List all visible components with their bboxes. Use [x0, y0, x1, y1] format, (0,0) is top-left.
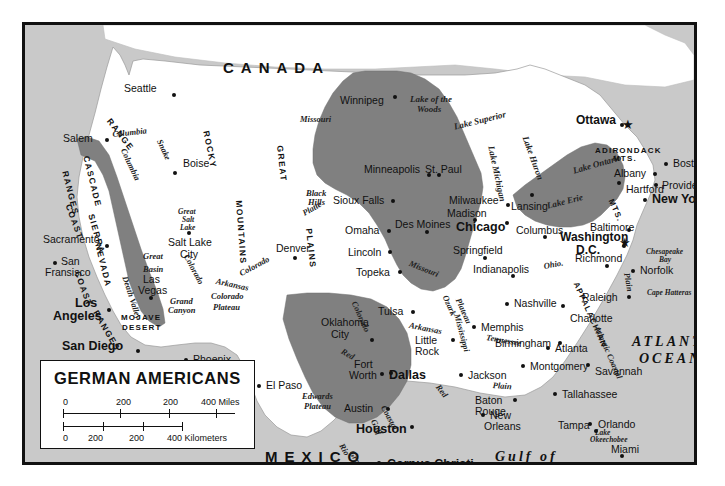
- city-marker-springfield: [483, 256, 487, 260]
- city-label-new: New: [490, 410, 511, 421]
- physio-label-colorado: Colorado: [211, 292, 244, 301]
- city-marker-orlando: [588, 422, 592, 426]
- city-label-corpus-christi: Corpus Christi: [387, 458, 474, 465]
- city-label-springfield: Springfield: [453, 245, 503, 256]
- city-marker-richmond: [605, 264, 609, 268]
- city-label-lansing: Lansing: [511, 201, 548, 212]
- city-marker-baton: [513, 398, 517, 402]
- city-label-houston: Houston: [356, 423, 407, 436]
- city-label-salt-lake: Salt Lake: [168, 237, 212, 248]
- city-marker-austin: [386, 407, 390, 411]
- city-label-dallas: Dallas: [389, 369, 426, 382]
- capital-star-ottawa: ★: [622, 118, 634, 131]
- city-label-sioux-falls: Sioux Falls: [333, 195, 384, 206]
- city-marker-houston: [410, 425, 414, 429]
- scale-miles-label-3: 400 Miles: [201, 397, 240, 407]
- city-label-charlotte: Charlotte: [570, 313, 613, 324]
- city-marker-indianapolis: [511, 274, 515, 278]
- city-label-indianapolis: Indianapolis: [473, 264, 529, 275]
- city-label-little: Little: [415, 335, 437, 346]
- city-marker-albany: [653, 172, 657, 176]
- city-label-oklahoma: Oklahoma: [321, 317, 369, 328]
- scale-miles-label-2: 200: [163, 397, 178, 407]
- city-label-austin: Austin: [344, 403, 373, 414]
- city-label-angeles: Angeles: [53, 310, 102, 323]
- city-marker-norfolk: [631, 269, 635, 273]
- scale-miles-label-0: 0: [63, 397, 68, 407]
- physio-label-plateau: Plateau: [213, 303, 240, 312]
- city-marker-winnipeg: [393, 95, 397, 99]
- city-marker-memphis: [472, 325, 476, 329]
- city-label-madison: Madison: [447, 208, 487, 219]
- city-marker-columbus: [543, 235, 547, 239]
- city-label-baton: Baton: [475, 395, 502, 406]
- physio-label-great: Great: [143, 252, 163, 261]
- city-label-boise: Boise: [183, 158, 209, 169]
- scale-km-label-2: 200: [129, 433, 144, 443]
- scale-km-tick-2: [143, 422, 144, 431]
- city-label-tallahassee: Tallahassee: [562, 389, 617, 400]
- city-marker-charlotte: [561, 304, 565, 308]
- scale-bar-miles: 0 200 200 400 Miles: [63, 397, 235, 418]
- city-marker-omaha: [387, 229, 391, 233]
- city-label-atlanta: Atlanta: [555, 343, 588, 354]
- city-label-providence: Providence: [662, 180, 697, 191]
- ocean-label-ocean: OCEAN: [639, 352, 697, 366]
- city-label-jackson: Jackson: [468, 370, 507, 381]
- city-marker-montgomery: [521, 364, 525, 368]
- city-marker-lansing: [530, 193, 534, 197]
- city-label-birmingham: Birmingham: [495, 338, 551, 349]
- city-label-boston: Boston: [673, 158, 697, 169]
- scale-km-bar: [63, 422, 235, 431]
- city-label-columbus: Columbus: [516, 225, 563, 236]
- city-label-orlando: Orlando: [598, 419, 635, 430]
- country-label-canada: CANADA: [223, 60, 330, 75]
- physio-label-plain: Plain: [623, 272, 635, 292]
- scale-km-tick-3: [182, 422, 183, 431]
- city-marker-oklahoma: [370, 338, 374, 342]
- city-label-el-paso: El Paso: [266, 380, 302, 391]
- city-label-worth: Worth: [349, 370, 377, 381]
- scale-km-tick-0: [63, 422, 64, 431]
- physio-label-canyon: Canyon: [168, 306, 195, 315]
- physio-label-edwards: Edwards: [302, 392, 333, 401]
- city-label-los: Los: [75, 297, 97, 310]
- city-marker-topeka: [398, 270, 402, 274]
- city-label-albany: Albany: [614, 168, 646, 179]
- city-label-new-york: New York: [652, 193, 697, 206]
- city-label-sacramento: Sacramento: [43, 234, 100, 245]
- physio-label-mojave: MOJAVE: [121, 314, 161, 322]
- city-marker-miami: [620, 454, 624, 458]
- city-label-chicago: Chicago: [456, 221, 505, 234]
- physio-label-mts: MTS.: [613, 155, 637, 163]
- city-marker-los: [107, 308, 111, 312]
- city-marker-providence: [654, 183, 658, 187]
- city-marker-hartford: [617, 181, 621, 185]
- city-label-minneapolis: Minneapolis: [364, 164, 420, 175]
- city-marker-salt-lake: [187, 231, 191, 235]
- water-label-woods: Woods: [417, 105, 441, 114]
- scale-miles-labels: 0 200 200 400 Miles: [63, 397, 235, 409]
- city-marker-little: [451, 338, 455, 342]
- city-label-salem: Salem: [63, 133, 93, 144]
- ocean-label-gulf-of: Gulf of: [495, 450, 558, 464]
- city-marker-salem: [105, 138, 109, 142]
- city-label-st-paul: St. Paul: [425, 164, 462, 175]
- city-label-richmond: Richmond: [575, 253, 622, 264]
- city-marker-denver: [293, 256, 297, 260]
- city-label-city: City: [331, 329, 349, 340]
- physio-label-plain: Plain: [492, 381, 511, 391]
- city-label-omaha: Omaha: [345, 225, 379, 236]
- city-marker-new-york: [643, 198, 647, 202]
- city-label-miami: Miami: [611, 444, 639, 455]
- city-label-city: City: [180, 249, 198, 260]
- city-label-fransisco: Fransisco: [45, 267, 91, 278]
- scale-km-line: [63, 426, 183, 427]
- water-label-bay: Bay: [659, 256, 671, 264]
- city-label-raleigh: Raleigh: [582, 292, 618, 303]
- water-label-missouri: Missouri: [300, 115, 331, 124]
- city-label-seattle: Seattle: [124, 83, 157, 94]
- scale-miles-bar: [63, 409, 235, 418]
- scale-miles-tick-0: [63, 409, 64, 418]
- scale-miles-line: [63, 413, 235, 414]
